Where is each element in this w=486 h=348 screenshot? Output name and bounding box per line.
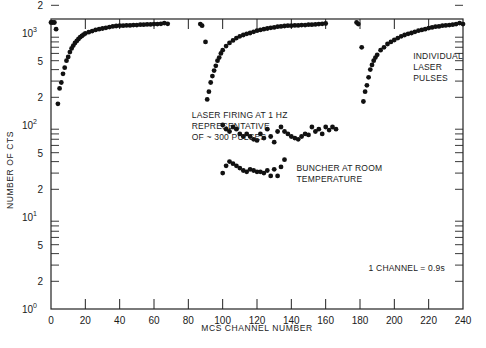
data-point (356, 22, 361, 27)
data-point (200, 23, 205, 28)
y-axis-title: NUMBER OF CTS (5, 131, 15, 209)
chart-annotation: INDIVIDUALLASERPULSES (413, 51, 463, 83)
data-point (57, 86, 62, 91)
data-point (207, 89, 212, 94)
x-tick-label: 80 (183, 315, 195, 326)
data-point (370, 63, 375, 68)
x-axis-title: MCS CHANNEL NUMBER (201, 323, 313, 333)
data-point (316, 127, 321, 132)
data-point (220, 171, 225, 176)
chart-annotation: 1 CHANNEL = 0.9s (369, 263, 445, 273)
x-tick-label: 240 (455, 315, 472, 326)
data-point (268, 174, 273, 179)
chart-annotation: BUNCHER AT ROOMTEMPERATURE (296, 163, 382, 184)
data-point (59, 80, 64, 85)
data-point (320, 132, 325, 137)
y-tick-label: 5 (37, 148, 43, 159)
x-tick-label: 160 (317, 315, 334, 326)
data-point (54, 27, 59, 32)
y-tick-label: 102 (22, 118, 37, 131)
data-point (217, 55, 222, 60)
data-point (334, 127, 339, 132)
data-point (368, 67, 373, 72)
x-tick-label: 60 (148, 315, 160, 326)
x-tick-label: 0 (48, 315, 54, 326)
data-point (203, 40, 208, 45)
data-point (224, 163, 229, 168)
data-point (272, 167, 277, 172)
data-point (365, 83, 370, 88)
data-point (52, 20, 57, 25)
data-point (310, 125, 315, 130)
data-point (220, 48, 225, 53)
data-point (56, 101, 61, 106)
y-tick-label: 2 (37, 92, 43, 103)
data-point (461, 22, 466, 27)
data-point (323, 21, 328, 26)
data-point (361, 99, 366, 104)
data-point (359, 45, 364, 50)
data-point (279, 165, 284, 170)
data-point (208, 80, 213, 85)
x-tick-label: 180 (352, 315, 369, 326)
x-tick-label: 220 (420, 315, 437, 326)
data-point (363, 89, 368, 94)
y-tick-label: 103 (22, 26, 37, 39)
data-point (66, 55, 71, 60)
data-point (268, 134, 273, 139)
data-point (265, 168, 270, 173)
chart-annotation: LASER FIRING AT 1 HZREPRESENTATIVEOF ~ 3… (192, 110, 288, 142)
y-tick-label: 2 (37, 184, 43, 195)
x-tick-label: 40 (114, 315, 126, 326)
data-point (306, 133, 311, 138)
data-point (375, 52, 380, 57)
chart-canvas: 020406080100120140160180200220240 100251… (0, 0, 486, 348)
data-points (49, 20, 466, 178)
data-point (61, 71, 66, 76)
data-point (213, 63, 218, 68)
y-tick-label: 2 (37, 276, 43, 287)
data-point (272, 140, 277, 145)
y-tick-label: 5 (37, 240, 43, 251)
y-tick-label: 100 (22, 302, 37, 315)
log-scatter-chart: 020406080100120140160180200220240 100251… (0, 0, 486, 348)
data-point (282, 157, 287, 162)
data-point (279, 125, 284, 130)
y-tick-label: 101 (22, 210, 37, 223)
x-tick-label: 200 (386, 315, 403, 326)
data-point (62, 65, 67, 70)
data-point (210, 74, 215, 79)
data-point (165, 21, 170, 26)
data-point (382, 45, 387, 50)
y-tick-label: 5 (37, 56, 43, 67)
data-point (275, 174, 280, 179)
y-tick-label: 2 (37, 0, 43, 11)
data-point (366, 75, 371, 80)
data-point (205, 97, 210, 102)
data-point (275, 129, 280, 134)
x-tick-label: 20 (80, 315, 92, 326)
data-point (212, 68, 217, 73)
